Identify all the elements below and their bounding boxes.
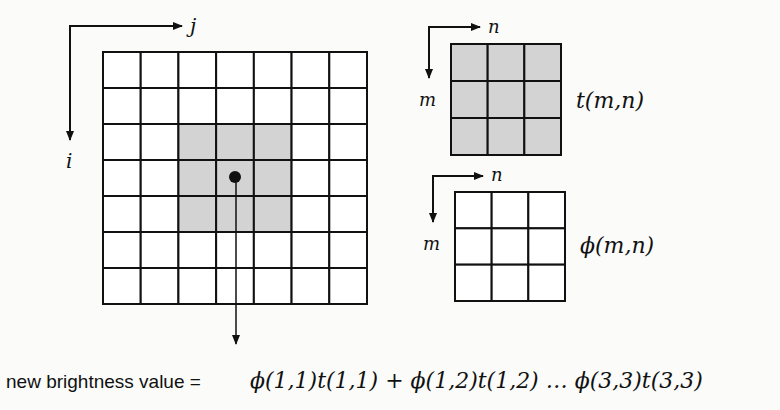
- image-grid-cell: [216, 124, 254, 160]
- kernel-grid-cell: [528, 265, 565, 301]
- i-axis-label: i: [66, 149, 72, 173]
- j-axis-label: j: [186, 14, 196, 38]
- kernel-grid-cell: [492, 265, 529, 301]
- image-grid-cell: [329, 124, 367, 160]
- image-grid-cell: [178, 268, 216, 304]
- image-grid-cell: [254, 52, 292, 88]
- image-grid-cell: [141, 268, 179, 304]
- image-grid-cell: [216, 52, 254, 88]
- image-grid-cell: [329, 52, 367, 88]
- center-pixel-marker: [229, 171, 241, 183]
- template-grid-cell: [488, 81, 525, 118]
- m-axis-label-k: m: [423, 233, 440, 254]
- template-grid-cell: [524, 81, 561, 118]
- image-grid-cell: [292, 52, 330, 88]
- image-grid-cell: [141, 196, 179, 232]
- kernel-grid: [455, 192, 565, 301]
- image-grid-cell: [254, 268, 292, 304]
- image-grid-cell: [141, 160, 179, 196]
- kernel-grid-cell: [528, 192, 565, 228]
- n-axis-label-t: n: [488, 16, 500, 37]
- image-grid-cell: [329, 196, 367, 232]
- image-grid-cell: [103, 196, 141, 232]
- image-grid-cell: [103, 88, 141, 124]
- image-grid-cell: [141, 52, 179, 88]
- kernel-grid-cell: [455, 192, 492, 228]
- image-grid-cell: [216, 196, 254, 232]
- n-axis-label-k: n: [491, 164, 503, 185]
- template-grid-cell: [488, 118, 525, 155]
- image-grid-cell: [254, 196, 292, 232]
- image-grid-cell: [103, 124, 141, 160]
- image-grid-cell: [141, 88, 179, 124]
- m-axis-label-t: m: [419, 89, 436, 110]
- image-grid-cell: [216, 88, 254, 124]
- image-grid-cell: [254, 88, 292, 124]
- template-grid-cell: [524, 118, 561, 155]
- image-grid-cell: [329, 232, 367, 268]
- kernel-grid-cell: [455, 265, 492, 301]
- image-grid-cell: [254, 232, 292, 268]
- image-grid-cell: [178, 52, 216, 88]
- template-grid-cell: [451, 118, 488, 155]
- template-grid-cell: [451, 44, 488, 81]
- image-grid-cell: [141, 124, 179, 160]
- formula-expression: ϕ(1,1)t(1,1) + ϕ(1,2)t(1,2) … ϕ(3,3)t(3,…: [250, 368, 703, 393]
- image-grid-cell: [178, 88, 216, 124]
- image-grid-cell: [216, 232, 254, 268]
- image-grid-cell: [292, 88, 330, 124]
- image-grid-cell: [254, 124, 292, 160]
- kernel-grid-cell: [492, 192, 529, 228]
- image-grid-cell: [329, 160, 367, 196]
- template-grid-cell: [488, 44, 525, 81]
- image-grid-cell: [292, 268, 330, 304]
- diagram-canvas: j i n m t(m,n) n m ϕ(m,n) new brightness…: [0, 0, 780, 410]
- template-label: t(m,n): [576, 88, 644, 113]
- template-grid-cell: [451, 81, 488, 118]
- image-grid-cell: [178, 124, 216, 160]
- image-grid-cell: [178, 232, 216, 268]
- image-grid-cell: [103, 232, 141, 268]
- image-grid-cell: [178, 196, 216, 232]
- image-grid-cell: [216, 268, 254, 304]
- image-grid-cell: [329, 268, 367, 304]
- image-grid-cell: [292, 160, 330, 196]
- image-grid-cell: [292, 232, 330, 268]
- image-grid-cell: [292, 196, 330, 232]
- image-grid-cell: [329, 88, 367, 124]
- template-grid: [451, 44, 561, 155]
- kernel-grid-cell: [528, 228, 565, 264]
- kernel-label: ϕ(m,n): [580, 233, 654, 258]
- image-grid-cell: [292, 124, 330, 160]
- image-grid-cell: [254, 160, 292, 196]
- image-grid-cell: [178, 160, 216, 196]
- formula-prefix: new brightness value =: [6, 371, 201, 392]
- image-grid-cell: [141, 232, 179, 268]
- template-grid-cell: [524, 44, 561, 81]
- image-grid-cell: [103, 268, 141, 304]
- kernel-grid-cell: [455, 228, 492, 264]
- image-grid-cell: [103, 52, 141, 88]
- kernel-grid-cell: [492, 228, 529, 264]
- image-grid-cell: [103, 160, 141, 196]
